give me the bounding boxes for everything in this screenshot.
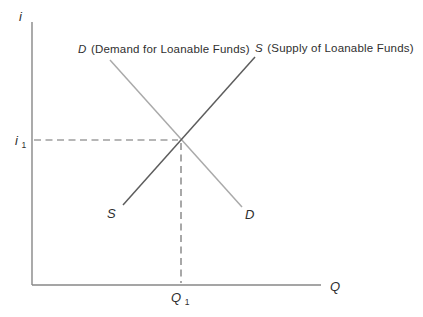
equilibrium-quantity-label: Q 1 [171,290,190,307]
loanable-funds-figure: i Q D (Demand for Loanable Funds) S (Sup… [0,0,423,317]
demand-curve [110,60,242,207]
loanable-funds-diagram: i Q D (Demand for Loanable Funds) S (Sup… [0,0,423,317]
x-axis-label: Q [330,279,340,294]
y-axis-label: i [19,9,23,24]
equilibrium-quantity-subscript: 1 [185,297,190,307]
demand-curve-label: D (Demand for Loanable Funds) [78,43,250,55]
equilibrium-quantity-symbol: Q [171,290,181,305]
demand-description: (Demand for Loanable Funds) [91,43,250,55]
equilibrium-rate-symbol: i [15,133,19,148]
demand-symbol: D [78,43,87,55]
equilibrium-rate-subscript: 1 [22,140,27,150]
supply-curve-label: S (Supply of Loanable Funds) [255,42,414,54]
supply-description: (Supply of Loanable Funds) [267,42,414,54]
equilibrium-rate-label: i 1 [15,133,27,150]
supply-symbol: S [255,42,263,54]
supply-curve-end-label: S [107,206,116,221]
supply-curve [123,57,255,205]
demand-curve-end-label: D [245,207,255,222]
